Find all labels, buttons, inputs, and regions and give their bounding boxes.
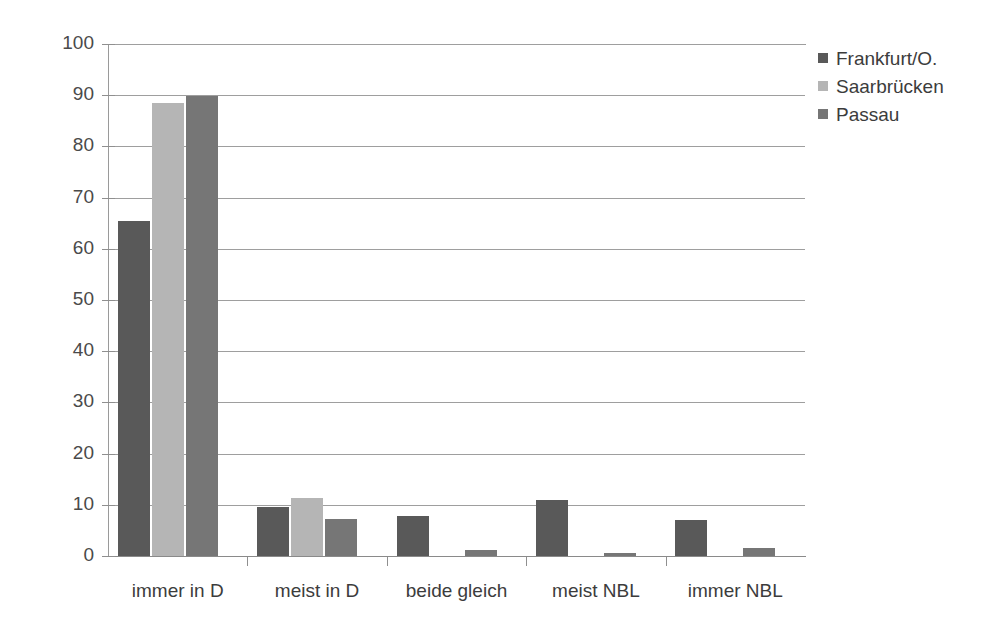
- bar: [118, 221, 150, 556]
- bar: [743, 548, 775, 556]
- bar: [675, 520, 707, 556]
- bar: [257, 507, 289, 556]
- y-axis-label-10: 10: [6, 493, 94, 515]
- bars-layer: [108, 44, 805, 556]
- plot-area-baseline: [108, 556, 806, 557]
- y-axis-label-0: 0: [6, 544, 94, 566]
- legend-swatch-frankfurt: [818, 53, 828, 63]
- bar: [186, 96, 218, 556]
- x-axis-tick-3: [526, 557, 527, 566]
- x-axis-label-3: meist NBL: [526, 580, 665, 602]
- x-axis-label-4: immer NBL: [666, 580, 805, 602]
- legend-swatch-passau: [818, 109, 828, 119]
- y-axis-label-80: 80: [6, 134, 94, 156]
- y-axis-label-70: 70: [6, 186, 94, 208]
- x-axis-label-1: meist in D: [247, 580, 386, 602]
- legend: Frankfurt/O.SaarbrückenPassau: [818, 44, 993, 128]
- y-axis-tick-0: [102, 556, 115, 557]
- x-axis-tick-1: [247, 557, 248, 566]
- bar: [325, 519, 357, 556]
- y-axis-label-90: 90: [6, 83, 94, 105]
- bar: [152, 103, 184, 556]
- x-axis-label-2: beide gleich: [387, 580, 526, 602]
- y-axis-label-50: 50: [6, 288, 94, 310]
- bar: [536, 500, 568, 556]
- x-axis-label-0: immer in D: [108, 580, 247, 602]
- y-axis-label-60: 60: [6, 237, 94, 259]
- legend-item: Passau: [818, 100, 993, 128]
- y-axis-label-30: 30: [6, 390, 94, 412]
- x-axis-tick-4: [666, 557, 667, 566]
- y-axis-label-20: 20: [6, 442, 94, 464]
- legend-item: Frankfurt/O.: [818, 44, 993, 72]
- legend-item-label: Frankfurt/O.: [836, 49, 937, 68]
- bar-chart: 0102030405060708090100 immer in Dmeist i…: [0, 0, 1001, 632]
- y-axis-label-100: 100: [6, 32, 94, 54]
- legend-item-label: Passau: [836, 105, 899, 124]
- legend-swatch-saarbruecken: [818, 81, 828, 91]
- bar: [291, 498, 323, 556]
- legend-item-label: Saarbrücken: [836, 77, 944, 96]
- bar: [397, 516, 429, 556]
- x-axis-tick-2: [387, 557, 388, 566]
- y-axis-label-40: 40: [6, 339, 94, 361]
- bar: [465, 550, 497, 556]
- legend-item: Saarbrücken: [818, 72, 993, 100]
- bar: [604, 553, 636, 556]
